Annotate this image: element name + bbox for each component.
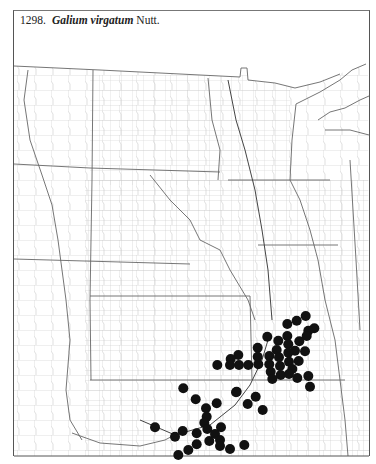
occurrence-dot bbox=[303, 371, 313, 381]
occurrence-dot bbox=[292, 316, 302, 326]
occurrence-dot bbox=[225, 360, 235, 370]
occurrence-dot bbox=[275, 361, 285, 371]
occurrence-dot bbox=[258, 405, 268, 415]
occurrence-dot bbox=[282, 319, 292, 329]
occurrence-dot bbox=[253, 359, 263, 369]
occurrence-dot bbox=[294, 356, 304, 366]
occurrence-dot bbox=[225, 444, 235, 454]
occurrence-dot bbox=[150, 422, 160, 432]
occurrence-dot bbox=[183, 445, 193, 455]
occurrence-dot bbox=[292, 373, 302, 383]
occurrence-dot bbox=[243, 399, 253, 409]
occurrence-dot bbox=[178, 383, 188, 393]
occurrence-dot bbox=[300, 346, 310, 356]
occurrence-dot bbox=[231, 387, 241, 397]
occurrence-dot bbox=[191, 394, 201, 404]
occurrence-dot bbox=[267, 374, 277, 384]
occurrence-dot bbox=[170, 432, 180, 442]
occurrence-dot bbox=[243, 360, 253, 370]
occurrence-dot bbox=[301, 311, 311, 321]
occurrence-dot bbox=[262, 332, 272, 342]
occurrence-dot bbox=[234, 360, 244, 370]
distribution-map bbox=[0, 0, 376, 464]
occurrence-dot bbox=[305, 382, 315, 392]
occurrence-dot bbox=[251, 392, 261, 402]
occurrence-dot bbox=[253, 343, 263, 353]
occurrence-dot bbox=[212, 398, 222, 408]
occurrence-dot bbox=[239, 440, 249, 450]
occurrence-dot bbox=[274, 352, 284, 362]
occurrence-dot bbox=[212, 360, 222, 370]
occurrence-dot bbox=[283, 348, 293, 358]
occurrence-dot bbox=[192, 439, 202, 449]
occurrence-dot bbox=[273, 336, 283, 346]
occurrence-dot bbox=[192, 428, 202, 438]
occurrence-dot bbox=[173, 450, 183, 460]
occurrence-dot bbox=[294, 336, 304, 346]
occurrence-dot bbox=[215, 441, 225, 451]
occurrence-dot bbox=[204, 436, 214, 446]
